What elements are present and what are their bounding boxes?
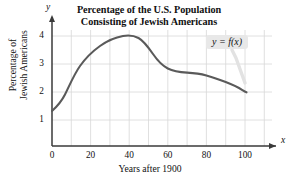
y-axis-title-line-2: Jewish Americans — [18, 17, 29, 113]
chart-title-line-1: Percentage of the U.S. Population — [56, 4, 242, 16]
x-axis-variable-label: x — [281, 135, 285, 145]
x-tick-label-40: 40 — [119, 150, 139, 160]
y-tick-label-1: 1 — [32, 114, 44, 124]
chart-figure: Percentage of the U.S. Population Consis… — [0, 0, 299, 183]
x-axis-arrowhead — [269, 143, 276, 149]
y-tick-label-3: 3 — [32, 58, 44, 68]
x-tick-label-0: 0 — [42, 150, 62, 160]
function-annotation-label: y = f(x) — [206, 35, 248, 49]
y-axis-arrowhead — [49, 15, 55, 22]
x-axis-title: Years after 1900 — [52, 163, 248, 174]
chart-title-line-2: Consisting of Jewish Americans — [56, 16, 242, 28]
x-tick-label-80: 80 — [196, 150, 216, 160]
x-tick-label-100: 100 — [235, 150, 255, 160]
x-tick-label-60: 60 — [158, 150, 178, 160]
annotation-leader — [232, 50, 245, 83]
x-tick-label-20: 20 — [81, 150, 101, 160]
chart-title: Percentage of the U.S. Population Consis… — [56, 4, 242, 27]
y-tick-label-4: 4 — [32, 30, 44, 40]
y-tick-label-2: 2 — [32, 86, 44, 96]
y-axis-title: Percentage of Jewish Americans — [7, 17, 33, 113]
y-axis-variable-label: y — [46, 2, 50, 12]
y-axis-title-line-1: Percentage of — [7, 17, 18, 113]
